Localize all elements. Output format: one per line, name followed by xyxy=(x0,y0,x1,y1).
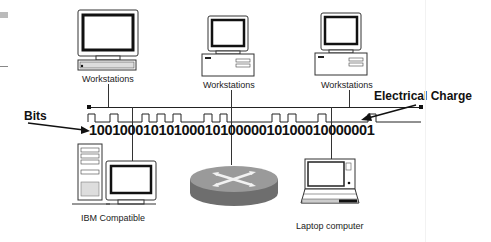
bus-terminator-left xyxy=(87,105,91,109)
ws3-drop-line xyxy=(349,90,350,108)
page-edge-divider xyxy=(425,0,426,242)
workstation-3-icon xyxy=(313,12,369,78)
ws2-drop-line xyxy=(231,90,232,108)
charge-arrow-icon xyxy=(358,103,418,123)
electrical-charge-label: Electrical Charge xyxy=(374,89,472,103)
bit-string: 1001000101010001010000010100010000001 xyxy=(89,122,374,138)
bits-arrow-icon xyxy=(26,120,92,134)
ibm-compatible-pc-icon xyxy=(68,142,164,208)
ws1-drop-line xyxy=(108,84,109,108)
bus-terminator-right xyxy=(419,105,423,109)
edge-artifact-top xyxy=(0,12,8,18)
router-icon xyxy=(188,163,280,207)
workstation-2-label: Workstations xyxy=(203,80,255,90)
ibm-compatible-label: IBM Compatible xyxy=(81,213,145,223)
edge-artifact-line xyxy=(0,66,8,67)
laptop-computer-label: Laptop computer xyxy=(296,221,364,231)
laptop-computer-icon xyxy=(299,157,361,207)
workstation-1-label: Workstations xyxy=(82,74,134,84)
workstation-1-icon xyxy=(76,8,142,72)
workstation-3-label: Workstations xyxy=(321,80,373,90)
workstation-2-icon xyxy=(200,15,256,79)
